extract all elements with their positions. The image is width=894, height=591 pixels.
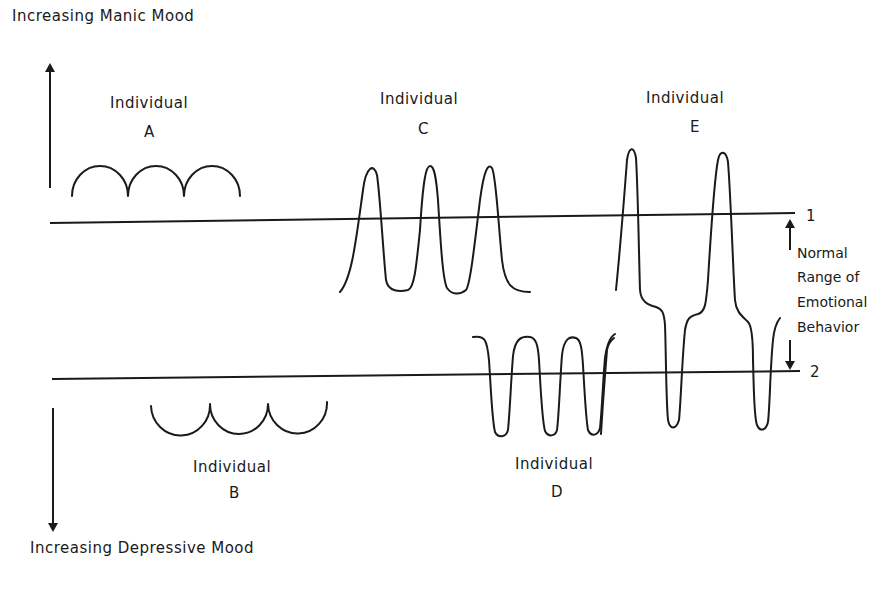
individual-e: Individual E	[601, 89, 780, 434]
individual-d-letter: D	[551, 483, 563, 501]
normal-range-up-arrow-icon	[785, 219, 795, 250]
individual-a-curve	[72, 166, 240, 196]
individual-e-title: Individual	[646, 89, 724, 107]
individual-a-title: Individual	[110, 94, 188, 112]
individual-a: Individual A	[72, 94, 240, 196]
individual-b-letter: B	[229, 484, 240, 502]
manic-mood-label: Increasing Manic Mood	[12, 7, 194, 25]
individual-c: Individual C	[340, 90, 530, 294]
lower-limit-line	[52, 371, 800, 379]
individual-e-curve-peak1	[616, 149, 780, 429]
normal-range-line3: Emotional	[797, 294, 867, 310]
upper-limit-line	[50, 213, 795, 223]
manic-up-arrow-icon	[45, 63, 55, 188]
individual-c-letter: C	[418, 120, 429, 138]
individual-d-curve	[473, 334, 615, 436]
individual-d-title: Individual	[515, 455, 593, 473]
individual-b: Individual B	[151, 402, 327, 502]
normal-range-line2: Range of	[797, 269, 860, 285]
individual-e-letter: E	[690, 118, 700, 136]
individual-b-curve	[151, 402, 327, 436]
normal-range-line1: Normal	[797, 245, 848, 261]
upper-limit-number: 1	[806, 207, 816, 225]
mood-diagram: Increasing Manic Mood Increasing Depress…	[0, 0, 894, 591]
individual-a-letter: A	[144, 123, 155, 141]
normal-range-line4: Behavior	[797, 319, 859, 335]
depressive-down-arrow-icon	[48, 408, 58, 532]
normal-range-down-arrow-icon	[785, 340, 795, 370]
lower-limit-number: 2	[810, 363, 820, 381]
individual-c-title: Individual	[380, 90, 458, 108]
individual-d: Individual D	[473, 334, 615, 501]
individual-b-title: Individual	[193, 458, 271, 476]
individual-c-curve	[340, 166, 530, 294]
depressive-mood-label: Increasing Depressive Mood	[30, 539, 254, 557]
